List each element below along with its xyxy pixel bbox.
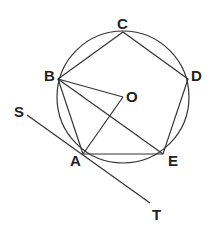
segment-oa <box>83 97 123 154</box>
label-t: T <box>152 206 161 223</box>
label-d: D <box>191 67 202 84</box>
label-s: S <box>14 103 24 120</box>
segment-bo <box>58 79 123 97</box>
segment-be <box>58 79 163 154</box>
label-c: C <box>117 15 128 32</box>
geometry-diagram: C B D O A E S T <box>0 0 213 240</box>
label-b: B <box>44 67 55 84</box>
label-o: O <box>126 88 138 105</box>
tangent-line-st <box>27 115 150 203</box>
label-e: E <box>168 152 178 169</box>
label-a: A <box>70 152 81 169</box>
